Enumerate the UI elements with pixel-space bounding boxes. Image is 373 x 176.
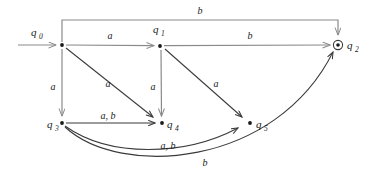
- state-label-q3-text: q: [47, 118, 53, 130]
- edge-q3-q2: [65, 52, 333, 156]
- edge-label-q3-q5: a, b: [161, 140, 176, 151]
- state-label-q4-sub: 4: [175, 124, 179, 133]
- edge-q1-q4: [161, 50, 162, 116]
- state-label-q4-text: q: [167, 118, 173, 130]
- state-label-q1-text: q: [153, 23, 159, 35]
- state-label-q0-sub: 0: [39, 32, 43, 41]
- state-label-q1-sub: 1: [161, 29, 165, 38]
- edge-q1-q5: [165, 49, 242, 117]
- state-diagram-canvas: q 0 q 1 q 2 q 3 q 4 q 5 a b b a a a: [0, 0, 373, 176]
- edge-q3-q5: [65, 126, 238, 150]
- edge-q1-q2: [164, 45, 330, 46]
- state-label-q2: q 2: [347, 39, 359, 54]
- state-label-q4: q 4: [167, 118, 179, 133]
- edge-label-q0-q4: a: [106, 78, 111, 89]
- state-label-q0-start: q 0: [31, 26, 43, 41]
- state-label-q2-text: q: [347, 39, 353, 51]
- edge-label-q1-q5: a: [214, 78, 219, 89]
- state-node-q5[interactable]: [248, 121, 252, 125]
- automaton-svg: q 0 q 1 q 2 q 3 q 4 q 5 a b b a a a: [0, 0, 373, 176]
- state-label-q0-text: q: [31, 26, 37, 38]
- edge-label-q3-q4: a, b: [101, 110, 116, 121]
- state-node-q4[interactable]: [160, 121, 164, 125]
- state-node-q2[interactable]: [333, 40, 342, 49]
- state-label-q2-sub: 2: [355, 45, 359, 54]
- edge-label-q0-q1: a: [108, 30, 113, 41]
- state-label-q1: q 1: [153, 23, 165, 38]
- edge-label-q1-q4: a: [151, 81, 156, 92]
- edge-q0-q2: [62, 20, 338, 42]
- state-label-q3-sub: 3: [54, 124, 59, 133]
- edge-label-q3-q2: b: [203, 157, 208, 168]
- state-label-q5-text: q: [256, 118, 262, 130]
- state-node-q0[interactable]: [60, 43, 64, 47]
- state-node-q1[interactable]: [158, 44, 162, 48]
- state-label-q5-sub: 5: [264, 124, 268, 133]
- edge-label-q0-q2: b: [198, 5, 203, 16]
- edge-label-q0-q3: a: [51, 81, 56, 92]
- edge-label-q1-q2: b: [248, 30, 253, 41]
- edge-q0-q1: [66, 45, 154, 46]
- state-label-q3: q 3: [47, 118, 59, 133]
- state-node-q3[interactable]: [60, 121, 64, 125]
